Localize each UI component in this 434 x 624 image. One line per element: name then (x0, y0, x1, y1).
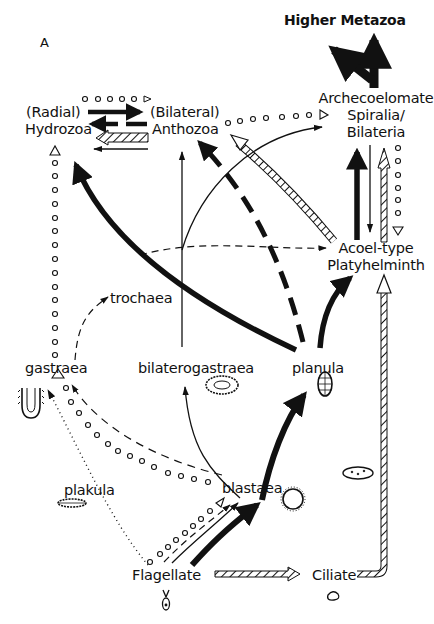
gastraea-to-trochaea-dashed-arrow (75, 297, 108, 360)
node-planula: planula (292, 360, 344, 377)
panel-label: A (40, 34, 49, 51)
gastraea-to-hydrozoa-circles (50, 146, 60, 358)
ciliate-small-organism-icon (328, 592, 339, 600)
bilaterogastraea-to-archecoelomate-arrow (182, 127, 322, 250)
higher-metazoa-arrows (334, 40, 374, 88)
planula-to-acoel-arrow (320, 278, 350, 348)
flagellate-to-blastaea-arrows (148, 498, 258, 565)
flagellate-to-ciliate-arrow (215, 567, 300, 581)
node-bilateral: (Bilateral) (150, 104, 220, 121)
node-plakula: plakula (64, 482, 115, 499)
acoel-to-archecoelomate-circles (393, 146, 403, 236)
blastaea-to-gastraea-circles (52, 369, 211, 485)
node-flagellate: Flagellate (132, 567, 201, 584)
node-radial: (Radial) (26, 104, 81, 121)
node-blastaea: blastaea (222, 480, 282, 497)
node-spiralia: Spiralia/ (347, 107, 404, 124)
plakula-organism-icon (58, 499, 86, 507)
node-ciliate: Ciliate (312, 567, 356, 584)
anthozoa-to-archecoelomate-circles (226, 110, 329, 126)
node-gastraea: gastraea (25, 360, 87, 377)
blastaea-organism-icon (281, 487, 305, 511)
gastraea-organism-icon (18, 388, 44, 418)
node-acoel-type: Acoel-type (338, 240, 413, 257)
bilaterogastraea-organism-icon (206, 376, 238, 394)
node-hydrozoa: Hydrozoa (25, 121, 92, 138)
node-trochaea: trochaea (110, 290, 172, 307)
ciliate-to-acoel-arrow (357, 275, 391, 574)
node-bilateria: Bilateria (347, 124, 406, 141)
node-platyhelminth: Platyhelminth (327, 257, 425, 274)
hydrozoa-anthozoa-arrows (83, 96, 152, 149)
node-bilaterogastraea: bilaterogastraea (138, 360, 254, 377)
planula-to-hydrozoa-arrow (76, 165, 296, 350)
acoel-archecoelomate-arrows (357, 145, 390, 242)
blastaea-to-gastraea-dashed-arrow (72, 385, 222, 475)
flagellate-organism-icon (163, 590, 170, 610)
planula-to-anthozoa-dashed-arrow (200, 143, 303, 342)
flagellate-to-gastraea-dotted-arrow (48, 390, 148, 565)
node-higher-metazoa: Higher Metazoa (284, 12, 406, 29)
node-archecoelomate: Archecoelomate (318, 90, 433, 107)
ciliate-organism-icon (343, 467, 373, 479)
trochaea-to-acoel-dashed-arrow (140, 246, 326, 255)
node-anthozoa: Anthozoa (152, 121, 219, 138)
